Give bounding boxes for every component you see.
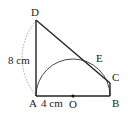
geometry-diagram: D A B O C E 8 cm 4 cm xyxy=(0,0,128,118)
measure-label-AD: 8 cm xyxy=(8,54,30,66)
semicircle-O xyxy=(36,59,110,96)
label-B: B xyxy=(112,97,119,109)
label-A: A xyxy=(29,97,37,109)
label-D: D xyxy=(31,6,39,18)
label-C: C xyxy=(112,71,119,83)
label-O: O xyxy=(69,98,77,110)
measure-label-AO: 4 cm xyxy=(41,97,63,109)
label-E: E xyxy=(96,52,103,64)
